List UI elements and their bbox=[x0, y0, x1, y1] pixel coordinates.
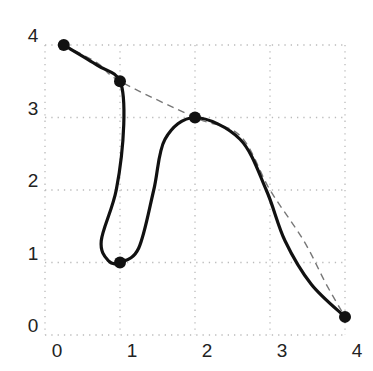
x-tick-label: 0 bbox=[52, 341, 63, 360]
control-point-marker bbox=[114, 75, 126, 87]
x-tick-label: 3 bbox=[277, 341, 288, 360]
solid-curve bbox=[64, 45, 345, 317]
control-point-marker bbox=[189, 112, 201, 124]
x-tick-label: 1 bbox=[127, 341, 138, 360]
x-tick-label: 4 bbox=[352, 341, 363, 360]
y-tick-label: 3 bbox=[28, 98, 39, 117]
y-tick-label: 4 bbox=[28, 26, 39, 45]
control-point-marker bbox=[58, 39, 70, 51]
dashed-curve bbox=[64, 45, 345, 317]
spline-chart bbox=[0, 0, 373, 371]
y-tick-label: 2 bbox=[28, 171, 39, 190]
y-tick-label: 1 bbox=[28, 243, 39, 262]
grid bbox=[45, 45, 345, 335]
x-tick-label: 2 bbox=[202, 341, 213, 360]
control-point-marker bbox=[114, 257, 126, 269]
y-tick-label: 0 bbox=[28, 316, 39, 335]
control-point-marker bbox=[339, 311, 351, 323]
